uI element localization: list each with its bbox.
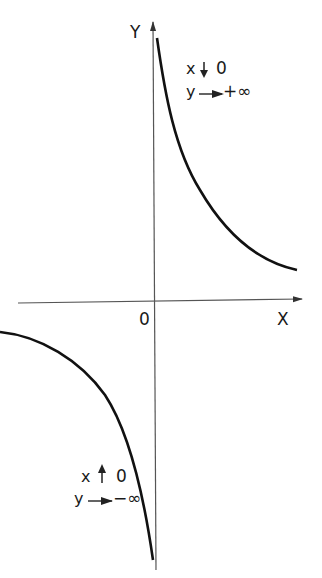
upper-annotation-plus-inf: +∞: [223, 83, 251, 100]
curve-upper-branch: [157, 38, 297, 270]
down-arrow-icon: [200, 62, 208, 78]
up-arrow-icon: [98, 464, 106, 483]
y-axis-label: Y: [130, 24, 140, 41]
lower-annotation-y: y: [74, 491, 83, 507]
upper-annotation-x: x: [186, 61, 195, 77]
lower-annotation-minus-inf: −∞: [113, 490, 141, 507]
x-axis: [18, 299, 302, 303]
upper-annotation-y: y: [186, 84, 195, 100]
origin-label: 0: [139, 311, 150, 328]
lower-annotation-x: x: [81, 469, 90, 485]
hyperbola-diagram: [0, 0, 322, 578]
right-arrow-icon: [88, 497, 113, 505]
lower-annotation-x-zero: 0: [116, 468, 127, 485]
y-axis: [153, 22, 156, 570]
curve-lower-branch: [0, 332, 153, 560]
upper-annotation-x-zero: 0: [216, 60, 227, 77]
right-arrow-icon: [199, 90, 224, 98]
x-axis-label: X: [277, 311, 289, 328]
